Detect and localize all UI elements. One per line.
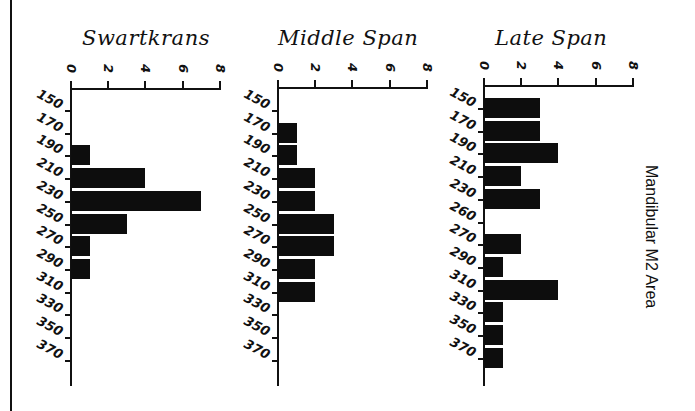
histogram-bar bbox=[278, 214, 334, 234]
x-tick bbox=[314, 80, 316, 88]
x-tick-label: 2 bbox=[101, 62, 116, 76]
x-tick-label: 2 bbox=[308, 61, 323, 75]
y-tick bbox=[478, 222, 484, 224]
histogram-bar bbox=[484, 325, 503, 345]
x-tick bbox=[632, 78, 634, 86]
x-tick-label: 8 bbox=[212, 62, 227, 76]
histogram-bar bbox=[484, 143, 558, 163]
y-tick bbox=[65, 337, 71, 339]
x-tick-label: 6 bbox=[588, 59, 603, 73]
x-tick-label: 0 bbox=[64, 62, 79, 76]
histogram-bar bbox=[484, 234, 521, 254]
x-tick-label: 8 bbox=[625, 59, 640, 73]
histogram-bar bbox=[484, 348, 503, 368]
y-tick bbox=[65, 110, 71, 112]
histogram-bar bbox=[484, 98, 540, 118]
x-tick-label: 2 bbox=[514, 59, 529, 73]
histogram-bar bbox=[484, 302, 503, 322]
histogram-bar bbox=[484, 280, 558, 300]
histogram-bar bbox=[71, 259, 90, 279]
histogram-bar bbox=[484, 166, 521, 186]
x-tick-label: 0 bbox=[271, 61, 286, 75]
histogram-bar bbox=[278, 259, 315, 279]
x-tick bbox=[389, 80, 391, 88]
y-tick-label: 370 bbox=[441, 331, 478, 360]
y-tick bbox=[272, 360, 278, 362]
x-tick bbox=[219, 81, 221, 89]
y-tick bbox=[65, 314, 71, 316]
panel-title: Middle Span bbox=[278, 26, 418, 50]
histogram-bar bbox=[278, 123, 297, 143]
histogram-bar bbox=[278, 145, 297, 165]
x-tick-label: 6 bbox=[382, 61, 397, 75]
histogram-bar bbox=[278, 236, 334, 256]
x-tick bbox=[595, 78, 597, 86]
x-tick-label: 4 bbox=[138, 62, 153, 76]
x-tick-label: 6 bbox=[175, 62, 190, 76]
y-tick bbox=[65, 133, 71, 135]
x-tick bbox=[351, 80, 353, 88]
histogram-bar bbox=[71, 214, 127, 234]
histogram-bar bbox=[278, 191, 315, 211]
histogram-bar bbox=[71, 236, 90, 256]
x-tick bbox=[107, 81, 109, 89]
histogram-bar bbox=[278, 282, 315, 302]
histogram-bar bbox=[484, 257, 503, 277]
page-border-line bbox=[10, 0, 12, 411]
y-tick-label: 370 bbox=[235, 333, 272, 362]
histogram-bar bbox=[71, 191, 201, 211]
histogram-bar bbox=[71, 145, 90, 165]
y-tick bbox=[272, 314, 278, 316]
x-tick-label: 8 bbox=[419, 61, 434, 75]
y-tick bbox=[65, 292, 71, 294]
histogram-bar bbox=[484, 189, 540, 209]
y-tick bbox=[65, 360, 71, 362]
panel-title: Swartkrans bbox=[82, 26, 210, 50]
x-tick bbox=[144, 81, 146, 89]
x-tick bbox=[426, 80, 428, 88]
histogram-bar bbox=[278, 168, 315, 188]
y-tick bbox=[272, 337, 278, 339]
x-tick-label: 4 bbox=[345, 61, 360, 75]
y-tick bbox=[272, 110, 278, 112]
histogram-bar bbox=[484, 121, 540, 141]
y-axis-title: Mandibular M2 Area bbox=[642, 165, 660, 308]
x-tick-label: 0 bbox=[477, 59, 492, 73]
histogram-bar bbox=[71, 168, 145, 188]
panel-title: Late Span bbox=[495, 26, 607, 50]
x-tick bbox=[182, 81, 184, 89]
y-tick-label: 370 bbox=[28, 333, 65, 362]
x-tick bbox=[520, 78, 522, 86]
x-tick-label: 4 bbox=[551, 59, 566, 73]
x-tick bbox=[557, 78, 559, 86]
